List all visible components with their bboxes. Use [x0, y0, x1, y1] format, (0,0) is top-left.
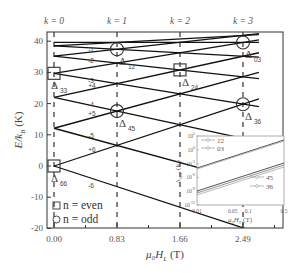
delta-subscript: 66	[60, 180, 68, 187]
delta-subscript: 45	[128, 125, 136, 132]
y-tick-label: -20	[31, 223, 43, 233]
y-tick-label: 20	[34, 99, 44, 109]
y-tick-label: -10	[31, 192, 43, 202]
x-tick-label: 0.83	[109, 234, 125, 244]
inset-y-tick-label: 10-9	[186, 186, 195, 194]
k-label: k = 2	[170, 16, 190, 26]
energy-level-line	[54, 46, 259, 57]
x-tick-label: 1.66	[172, 234, 188, 244]
inset-legend-label: 3̄6	[266, 183, 274, 191]
level-label: -5	[88, 132, 94, 139]
inset-y-tick-label: 10-6	[186, 172, 195, 180]
level-label: -4	[88, 101, 94, 108]
y-tick-label: 0	[39, 161, 44, 171]
y-tick-label: 40	[34, 36, 44, 46]
legend-odd-label: n = odd	[63, 213, 98, 225]
inset-x-tick-label: 0.05	[228, 208, 238, 214]
inset-y-tick-label: 10-12	[184, 200, 195, 208]
main-plot: +6-6+5-5+4-4-3-2-1-20-100102030400.000.8…	[12, 16, 288, 263]
inset-legend-marker	[256, 176, 259, 179]
inset-y-tick-label: 103	[188, 131, 196, 139]
y-tick-label: 30	[34, 67, 44, 77]
level-label: -6	[88, 182, 94, 189]
delta-label: Δ	[182, 76, 189, 88]
k-label: k = 1	[107, 16, 127, 26]
inset-y-tick-label: 100	[188, 145, 196, 153]
inset-frame	[197, 136, 284, 205]
inset-legend-marker	[207, 139, 210, 142]
inset-x-tick-label: 0.1	[245, 208, 252, 214]
inset-x-label: μ0HT (T)	[228, 216, 253, 225]
delta-subscript: 12	[128, 63, 136, 70]
x-tick-label: 2.49	[235, 234, 251, 244]
k-label: k = 3	[233, 16, 253, 26]
delta-subscript: 36	[254, 118, 262, 125]
delta-subscript: 33	[60, 87, 68, 94]
level-label: -3	[88, 77, 94, 84]
x-tick-label: 0.00	[46, 234, 62, 244]
level-label: -1	[88, 46, 94, 53]
y-tick-label: 10	[34, 130, 44, 140]
inset-x-tick-label: 0.5	[281, 208, 288, 214]
inset-legend-label: 1̄2	[217, 137, 225, 145]
delta-subscript: 03	[254, 56, 262, 63]
delta-label: Δ	[119, 55, 126, 67]
delta-label: Δ	[51, 172, 58, 184]
inset-legend-marker	[207, 147, 210, 150]
inset-legend-label: 4̄5	[266, 174, 274, 182]
inset-x-tick-label: 0.01	[192, 208, 202, 214]
k-label: k = 0	[44, 16, 64, 26]
level-label: +5	[88, 110, 96, 117]
inset-y-tick-label: 10-3	[186, 159, 195, 167]
level-label: +6	[88, 146, 96, 153]
y-axis-label: E/kB (K)	[12, 111, 27, 149]
delta-label: Δ	[51, 79, 58, 91]
inset-legend-label: 03	[217, 145, 225, 153]
delta-subscript: 24	[191, 84, 199, 91]
inset-legend-marker	[256, 185, 259, 188]
legend-circle-marker	[53, 216, 60, 223]
delta-label: Δ	[119, 117, 126, 129]
x-axis-label: μ₀HL (T)	[145, 248, 184, 263]
delta-label: Δ	[245, 48, 252, 60]
inset-y-label: Δmm' (K)	[174, 160, 183, 184]
energy-level-chart: +6-6+5-5+4-4-3-2-1-20-100102030400.000.8…	[0, 0, 300, 273]
level-label: -2	[88, 57, 94, 64]
energy-level-line	[54, 35, 259, 46]
legend-even-label: n = even	[63, 199, 103, 211]
delta-label: Δ	[245, 110, 252, 122]
